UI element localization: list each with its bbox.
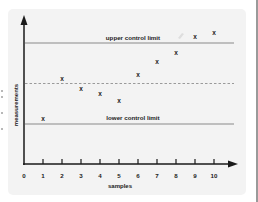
data-point-marker: x [193,33,197,40]
y-axis-arrow-icon [21,15,28,25]
x-tick-label: 0 [22,172,26,179]
x-tick-label: 4 [98,172,102,179]
y-axis-label: measurements [13,83,19,126]
data-point-marker: x [155,58,159,65]
x-tick-label: 9 [193,172,197,179]
data-point-marker: x [98,90,102,97]
x-tick-label: 6 [136,172,140,179]
x-tick-label: 3 [79,172,83,179]
data-point-marker: x [136,71,140,78]
control-chart: 012345678910 xxxxxxxxxx upper control li… [0,0,258,202]
x-tick-label: 2 [60,172,64,179]
data-point-marker: x [60,75,64,82]
x-tick-label: 5 [117,172,121,179]
x-tick-label: 7 [155,172,159,179]
data-point-marker: x [41,115,45,122]
data-point-marker: x [174,49,178,56]
x-tick-label: 8 [174,172,178,179]
upper-limit-label: upper control limit [106,34,160,41]
faint-cursor-mark-icon [178,33,184,39]
reference-lines [25,43,234,124]
x-axis-arrow-icon [228,161,238,168]
x-tick-label: 1 [41,172,45,179]
x-tick-label: 10 [211,172,218,179]
data-point-marker: x [79,85,83,92]
data-point-marker: x [212,29,216,36]
x-axis-label: samples [108,183,133,189]
data-point-marker: x [117,97,121,104]
lower-limit-label: lower control limit [106,114,159,121]
x-ticks: 012345678910 [22,159,218,179]
